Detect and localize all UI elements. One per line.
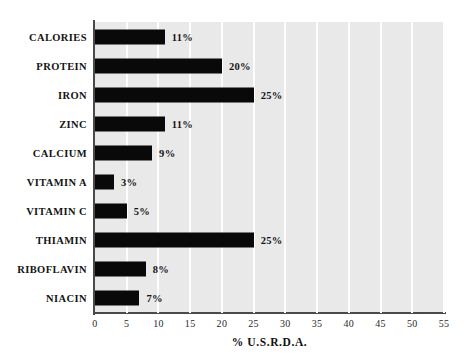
bar	[95, 291, 139, 306]
bar-category-label: THIAMIN	[36, 235, 87, 246]
bar-row: VITAMIN A3%	[0, 168, 469, 197]
bar-fill	[95, 175, 114, 190]
x-tick-label: 30	[270, 318, 300, 329]
bar-category-label: NIACIN	[46, 293, 87, 304]
bar	[95, 262, 146, 277]
x-tick-label: 40	[334, 318, 364, 329]
bar-row: IRON25%	[0, 80, 469, 109]
bar-category-label: RIBOFLAVIN	[17, 264, 87, 275]
bar-category-label: IRON	[58, 89, 87, 100]
bar-row: ZINC11%	[0, 109, 469, 138]
bar-fill	[95, 29, 165, 44]
x-tick-label: 25	[239, 318, 269, 329]
bar-row: NIACIN7%	[0, 284, 469, 313]
bar-value-label: 8%	[153, 264, 169, 275]
x-axis-title: % U.S.R.D.A.	[95, 336, 444, 348]
x-tick-label: 55	[429, 318, 459, 329]
bar-value-label: 7%	[146, 293, 162, 304]
x-tick-label: 20	[207, 318, 237, 329]
bar-fill	[95, 87, 254, 102]
bar-fill	[95, 291, 139, 306]
bar	[95, 58, 222, 73]
bar-row: VITAMIN C5%	[0, 197, 469, 226]
bar-fill	[95, 145, 152, 160]
bar	[95, 87, 254, 102]
bar-category-label: VITAMIN C	[26, 206, 87, 217]
bar	[95, 145, 152, 160]
x-tick-label: 45	[366, 318, 396, 329]
x-tick-label: 50	[397, 318, 427, 329]
bar-value-label: 9%	[159, 147, 175, 158]
x-tick-label: 0	[80, 318, 110, 329]
bar-row: RIBOFLAVIN8%	[0, 255, 469, 284]
bar-value-label: 25%	[261, 235, 283, 246]
bar-row: PROTEIN20%	[0, 51, 469, 80]
bar-chart-figure: CALORIES11%PROTEIN20%IRON25%ZINC11%CALCI…	[0, 0, 469, 361]
x-tick-label: 10	[143, 318, 173, 329]
bar-value-label: 11%	[172, 118, 193, 129]
bar-category-label: CALORIES	[29, 31, 87, 42]
bar	[95, 29, 165, 44]
bar	[95, 175, 114, 190]
bar-value-label: 11%	[172, 31, 193, 42]
x-tick-label: 15	[175, 318, 205, 329]
bar-category-label: CALCIUM	[33, 147, 87, 158]
bar-category-label: PROTEIN	[36, 60, 87, 71]
bar	[95, 233, 254, 248]
bar-fill	[95, 204, 127, 219]
bar-fill	[95, 116, 165, 131]
bar-fill	[95, 262, 146, 277]
bar-category-label: VITAMIN A	[27, 177, 87, 188]
bar-fill	[95, 233, 254, 248]
bar-row: THIAMIN25%	[0, 226, 469, 255]
bar-fill	[95, 58, 222, 73]
bar-category-label: ZINC	[59, 118, 87, 129]
bar-row: CALCIUM9%	[0, 138, 469, 167]
x-tick-label: 35	[302, 318, 332, 329]
bar-value-label: 25%	[261, 89, 283, 100]
x-tick-label: 5	[112, 318, 142, 329]
bar-value-label: 20%	[229, 60, 251, 71]
bar-value-label: 5%	[134, 206, 150, 217]
bar-value-label: 3%	[121, 177, 137, 188]
bar-row: CALORIES11%	[0, 22, 469, 51]
bar	[95, 204, 127, 219]
bar	[95, 116, 165, 131]
